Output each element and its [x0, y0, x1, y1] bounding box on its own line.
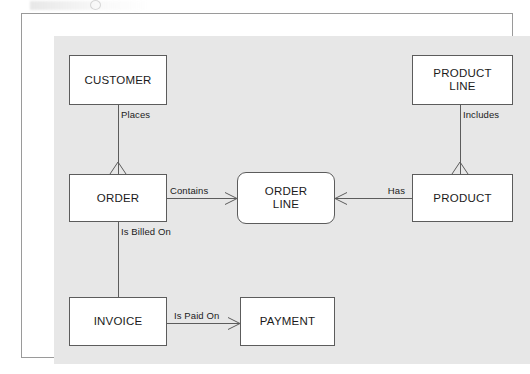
relationship-label-places: Places — [121, 109, 150, 120]
diagram-frame: CUSTOMER PRODUCT LINE ORDER ORDER LINE P… — [21, 13, 513, 358]
relationship-label-is-billed-on: Is Billed On — [121, 226, 171, 237]
entity-order-label: ORDER — [97, 192, 140, 205]
scan-artifact-mark — [90, 0, 101, 10]
entity-customer[interactable]: CUSTOMER — [69, 55, 167, 105]
relationship-label-is-paid-on: Is Paid On — [174, 310, 219, 321]
crowsfoot-orderline-has — [335, 192, 348, 205]
entity-order[interactable]: ORDER — [69, 174, 167, 222]
entity-order-line[interactable]: ORDER LINE — [237, 172, 335, 224]
relationship-label-contains: Contains — [170, 185, 208, 196]
entity-invoice[interactable]: INVOICE — [69, 297, 167, 346]
diagram-canvas: CUSTOMER PRODUCT LINE ORDER ORDER LINE P… — [54, 36, 530, 364]
entity-product[interactable]: PRODUCT — [412, 174, 513, 222]
entity-order-line-label: ORDER LINE — [265, 185, 308, 211]
diagram-page: CUSTOMER PRODUCT LINE ORDER ORDER LINE P… — [0, 0, 530, 374]
crowsfoot-product-includes — [450, 162, 470, 174]
relationship-label-has: Has — [354, 185, 405, 196]
entity-payment-label: PAYMENT — [260, 315, 315, 328]
crowsfoot-order-places — [108, 162, 128, 174]
entity-invoice-label: INVOICE — [94, 315, 143, 328]
relationship-label-includes: Includes — [463, 109, 499, 120]
connector-is-billed-on — [118, 222, 119, 297]
entity-payment[interactable]: PAYMENT — [240, 297, 335, 346]
entity-product-line-label: PRODUCT LINE — [433, 67, 491, 93]
entity-product-line[interactable]: PRODUCT LINE — [412, 55, 513, 105]
entity-customer-label: CUSTOMER — [84, 74, 151, 87]
entity-product-label: PRODUCT — [433, 192, 491, 205]
